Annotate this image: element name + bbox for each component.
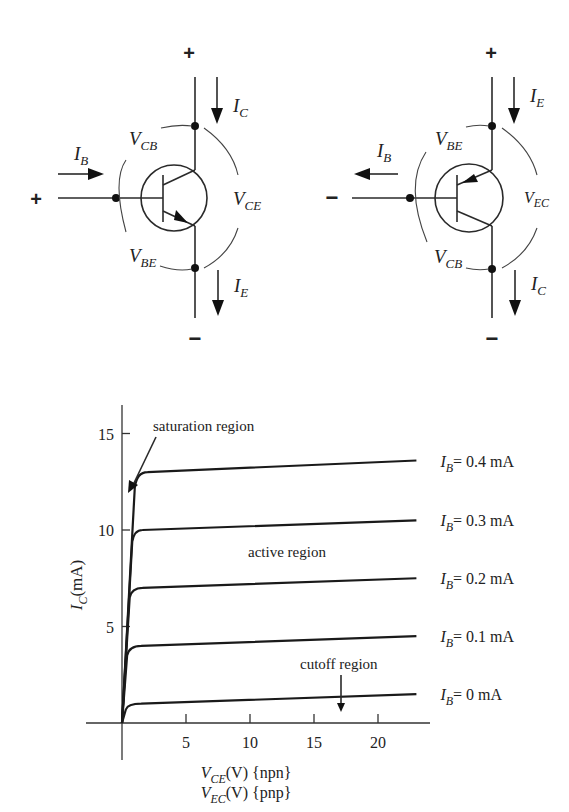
npn-top-plus-sign: + <box>183 42 195 64</box>
npn-label-ic: IC <box>232 95 248 120</box>
npn-emitter-arrow-icon <box>174 210 188 223</box>
y-tick-label: 15 <box>98 426 114 443</box>
npn-ic-arrow-icon <box>211 108 223 124</box>
ib-curve-label: IB= 0 mA <box>439 686 502 708</box>
npn-label-vcb: VCB <box>129 128 157 153</box>
pnp-emitter-node <box>488 122 496 130</box>
pnp-label-vcb: VCB <box>434 246 462 271</box>
npn-vce-arc-bottom <box>204 228 238 268</box>
y-tick-label: 5 <box>106 619 114 636</box>
npn-emitter-node <box>191 264 199 272</box>
active-region-label: active region <box>248 544 326 560</box>
npn-vcb-arc-top <box>161 125 192 128</box>
x-tick-label: 15 <box>306 734 322 751</box>
npn-transistor-diagram: + − + IC IE IB <box>30 42 261 351</box>
ib-curve-labels: IB= 0.4 mAIB= 0.3 mAIB= 0.2 mAIB= 0.1 mA… <box>439 453 514 709</box>
pnp-label-vbe: VBE <box>435 128 463 153</box>
bjt-figure: + − + IC IE IB <box>0 0 569 812</box>
x-tick-label: 10 <box>242 734 258 751</box>
pnp-ic-arrow-icon <box>509 300 521 316</box>
saturation-region-label: saturation region <box>153 418 255 434</box>
cutoff-arrow-icon <box>337 703 345 712</box>
npn-ie-arrow-icon <box>212 300 224 316</box>
pnp-base-node <box>406 194 414 202</box>
pnp-label-ib: IB <box>376 140 391 165</box>
npn-collector-lead <box>163 170 195 185</box>
npn-vbe-arc-bottom <box>160 266 192 270</box>
pnp-vec-arc-top <box>502 128 537 175</box>
y-axis-ticks: 51015 <box>98 426 130 636</box>
npn-collector-node <box>191 122 199 130</box>
ib-curve-label: IB= 0.3 mA <box>439 512 514 534</box>
npn-ib-arrow-icon <box>88 168 104 180</box>
npn-bottom-minus-sign: − <box>189 326 202 351</box>
pnp-label-ie: IE <box>529 85 544 110</box>
npn-label-vce: VCE <box>233 188 261 213</box>
ib-curve <box>122 636 416 723</box>
y-tick-label: 10 <box>98 522 114 539</box>
pnp-transistor-diagram: + − − IE IC IB VBE VCB VEC <box>326 42 551 351</box>
ib-curve-label: IB= 0.2 mA <box>439 570 514 592</box>
npn-base-arc <box>119 160 126 232</box>
x-axis-label-pnp: VEC(V) {pnp} <box>201 784 292 806</box>
cutoff-region-label: cutoff region <box>300 656 378 672</box>
x-tick-label: 20 <box>370 734 386 751</box>
pnp-vcb-arc-bottom <box>466 268 489 270</box>
pnp-ib-arrow-icon <box>354 168 370 180</box>
pnp-collector-lead <box>457 211 492 226</box>
npn-label-ie: IE <box>233 275 248 300</box>
pnp-top-plus-sign: + <box>485 42 497 64</box>
x-tick-label: 5 <box>182 734 190 751</box>
npn-label-ib: IB <box>73 143 88 168</box>
output-characteristics-chart: 51015 5101520 IB= 0.4 mAIB= 0.3 mAIB= 0.… <box>67 405 515 806</box>
pnp-label-ic: IC <box>530 273 546 298</box>
npn-label-vbe: VBE <box>129 245 157 270</box>
pnp-vec-arc-bottom <box>502 228 537 268</box>
npn-base-plus-sign: + <box>30 188 42 210</box>
pnp-emitter-arrow-icon <box>462 174 478 183</box>
npn-vce-arc-top <box>204 128 238 175</box>
ib-curve <box>122 461 416 723</box>
ib-curve-label: IB= 0.4 mA <box>439 453 514 475</box>
ib-curves <box>122 461 416 723</box>
x-axis-label-npn: VCE(V) {npn} <box>201 764 292 786</box>
x-axis-ticks: 5101520 <box>182 714 386 751</box>
ib-curve <box>122 694 416 723</box>
pnp-bottom-minus-sign: − <box>486 326 499 351</box>
pnp-vbe-arc-top <box>466 125 489 127</box>
saturation-arrow-shaft <box>133 437 156 485</box>
pnp-base-arc <box>415 152 427 242</box>
pnp-label-vec: VEC <box>524 189 550 210</box>
y-axis-label: IC(mA) <box>67 560 90 612</box>
pnp-ie-arrow-icon <box>508 108 520 124</box>
pnp-collector-node <box>488 265 496 273</box>
ib-curve <box>122 578 416 723</box>
pnp-base-minus-sign: − <box>326 185 339 210</box>
ib-curve-label: IB= 0.1 mA <box>439 628 514 650</box>
